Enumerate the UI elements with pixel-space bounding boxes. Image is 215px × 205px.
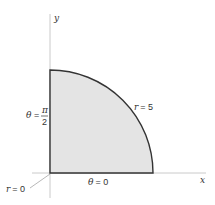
x-axis-label: x xyxy=(200,175,205,185)
pi-numerator: π xyxy=(41,105,49,115)
theta-symbol-top: θ xyxy=(26,110,32,120)
two-denominator: 2 xyxy=(42,117,47,127)
label-r-equals-5: r= 5 xyxy=(134,102,153,112)
shaded-region xyxy=(50,70,153,173)
equals-sign-top: = xyxy=(34,110,39,120)
polar-region-diagram: y x r= 5 θ = π 2 θ= 0 r= 0 xyxy=(0,0,215,205)
origin-leader-line xyxy=(30,174,50,188)
y-axis-label: y xyxy=(53,13,60,23)
label-r-equals-0: r= 0 xyxy=(6,184,25,194)
label-theta-equals-0: θ= 0 xyxy=(88,177,108,187)
